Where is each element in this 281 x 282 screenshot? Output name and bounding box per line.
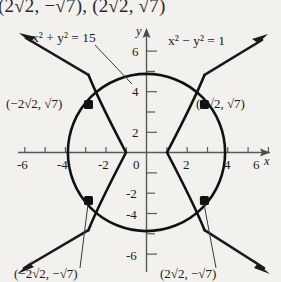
- x-tick-label-4: 4: [224, 157, 231, 173]
- equation-label-circle: x² + y² = 15: [32, 30, 96, 46]
- point-bottom-left: [84, 196, 93, 205]
- axes: [18, 31, 270, 272]
- point-top-left: [84, 100, 93, 109]
- point-label-top-left: (−2√2, √7): [6, 96, 62, 112]
- leader-bottom-left: [80, 204, 88, 268]
- x-tick-label-6: 6: [253, 157, 260, 173]
- asymptote-ray-lower-left: [24, 230, 88, 268]
- point-label-bottom-left: (−2√2, −√7): [14, 266, 78, 282]
- x-tick-label--2: -2: [98, 157, 109, 173]
- x-tick-label--6: -6: [17, 157, 28, 173]
- y-tick-label--2: -2: [126, 186, 137, 202]
- equation-label-hyperbola: x² − y² = 1: [168, 33, 225, 49]
- y-tick-label-4: 4: [132, 84, 139, 100]
- x-axis-label: x: [264, 154, 270, 169]
- x-tick-label-0: 0: [133, 157, 140, 173]
- asymptote-arrowheads: [17, 33, 270, 274]
- y-tick-label--4: -4: [126, 207, 137, 223]
- point-bottom-right: [200, 196, 209, 205]
- x-tick-label-2: 2: [183, 157, 190, 173]
- x-tick-label--4: -4: [57, 157, 68, 173]
- point-label-top-right: (2√2, √7): [196, 96, 245, 112]
- y-tick-label--6: -6: [126, 248, 137, 264]
- answer-line: (2√2, −√7), (2√2, √7): [0, 0, 165, 17]
- asymptote-ray-lower-right: [205, 230, 264, 268]
- y-tick-label-6: 6: [132, 44, 139, 60]
- y-axis-label: y: [136, 24, 142, 39]
- leader-circle-label: [95, 45, 132, 84]
- point-label-bottom-right: (2√2, −√7): [160, 266, 216, 282]
- y-tick-label-2: 2: [132, 125, 139, 141]
